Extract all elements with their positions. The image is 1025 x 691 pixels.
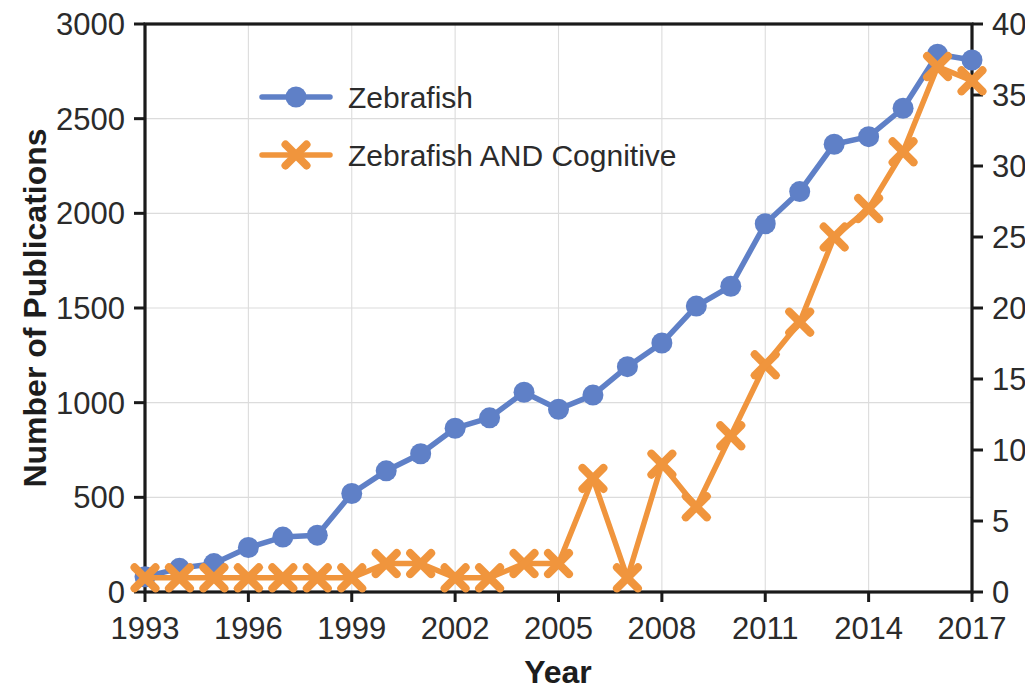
publications-line-chart: 050010001500200025003000 051015202530354… [0, 0, 1025, 691]
right-tick-label: 20 [992, 291, 1025, 326]
left-tick-label: 2000 [56, 196, 125, 231]
data-point-marker [445, 418, 466, 439]
data-point-marker [893, 98, 914, 119]
data-point-marker [858, 126, 879, 147]
data-point-marker [514, 382, 535, 403]
data-point-marker [720, 276, 741, 297]
right-tick-label: 15 [992, 362, 1025, 397]
data-point-marker [548, 399, 569, 420]
data-point-marker [755, 213, 776, 234]
right-tick-label: 10 [992, 433, 1025, 468]
left-tick-label: 3000 [56, 7, 125, 42]
data-point-marker [479, 407, 500, 428]
data-point-marker [410, 443, 431, 464]
x-tick-label: 2011 [732, 611, 799, 646]
data-point-marker [307, 525, 328, 546]
left-tick-label: 500 [73, 480, 125, 515]
data-point-marker [651, 333, 672, 354]
x-tick-label: 2017 [938, 611, 1007, 646]
right-tick-label: 40 [992, 7, 1025, 42]
left-tick-label: 1000 [56, 386, 125, 421]
x-tick-label: 1999 [317, 611, 386, 646]
data-point-marker [272, 527, 293, 548]
left-tick-label: 0 [108, 575, 125, 610]
x-tick-label: 2014 [834, 611, 903, 646]
data-point-marker [238, 537, 259, 558]
right-tick-label: 35 [992, 78, 1025, 113]
x-tick-label: 2002 [421, 611, 490, 646]
x-tick-label: 2008 [627, 611, 696, 646]
data-point-marker [341, 483, 362, 504]
data-point-marker [789, 181, 810, 202]
data-point-marker [962, 49, 983, 70]
x-tick-label: 1993 [111, 611, 180, 646]
legend-marker [286, 87, 307, 108]
data-point-marker [617, 356, 638, 377]
y-axis-title: Number of Publications [17, 128, 53, 487]
left-tick-label: 2500 [56, 102, 125, 137]
legend-label: Zebrafish [348, 81, 473, 114]
right-tick-label: 25 [992, 220, 1025, 255]
right-tick-label: 5 [992, 504, 1009, 539]
x-axis-title: Year [524, 654, 592, 690]
x-tick-label: 2005 [524, 611, 593, 646]
data-point-marker [824, 134, 845, 155]
chart-figure: 050010001500200025003000 051015202530354… [0, 0, 1025, 691]
data-point-marker [686, 296, 707, 317]
x-axis-tick-labels: 199319961999200220052008201120142017 [111, 611, 1007, 646]
x-tick-label: 1996 [214, 611, 283, 646]
left-tick-label: 1500 [56, 291, 125, 326]
data-point-marker [582, 385, 603, 406]
right-tick-label: 0 [992, 575, 1009, 610]
legend-label: Zebrafish AND Cognitive [348, 139, 676, 172]
data-point-marker [376, 460, 397, 481]
right-tick-label: 30 [992, 149, 1025, 184]
